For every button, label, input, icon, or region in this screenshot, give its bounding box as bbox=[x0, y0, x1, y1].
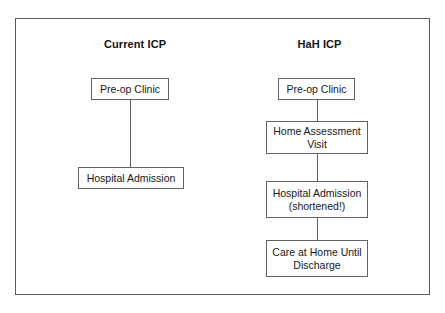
node-label-line1: Home Assessment bbox=[273, 125, 361, 138]
node-label-line1: Care at Home Until bbox=[272, 246, 361, 259]
node-label-line1: Hospital Admission bbox=[273, 187, 362, 200]
node-current-pre-op-clinic: Pre-op Clinic bbox=[91, 78, 169, 100]
connector-current-preop-to-admission bbox=[130, 100, 131, 167]
node-label-line1: Pre-op Clinic bbox=[100, 83, 160, 96]
flowchart-diagram: Current ICP HaH ICP Pre-op Clinic Hospit… bbox=[0, 0, 445, 313]
connector-hah-preop-to-home-assessment bbox=[317, 100, 318, 121]
node-label-line2: Visit bbox=[273, 138, 361, 151]
connector-hah-home-assessment-to-admission bbox=[317, 154, 318, 181]
node-hah-home-assessment-visit: Home Assessment Visit bbox=[266, 121, 368, 154]
node-hah-hospital-admission-shortened: Hospital Admission (shortened!) bbox=[266, 181, 368, 218]
connector-hah-admission-to-care-at-home bbox=[317, 218, 318, 240]
column-title-hah-icp: HaH ICP bbox=[262, 38, 377, 50]
node-label-line1: Pre-op Clinic bbox=[286, 83, 346, 96]
node-label-line2: (shortened!) bbox=[273, 200, 362, 213]
node-label-line1: Hospital Admission bbox=[87, 172, 176, 185]
node-hah-care-at-home-until-discharge: Care at Home Until Discharge bbox=[266, 240, 368, 277]
node-current-hospital-admission: Hospital Admission bbox=[78, 167, 184, 189]
node-hah-pre-op-clinic: Pre-op Clinic bbox=[278, 78, 355, 100]
column-title-current-icp: Current ICP bbox=[75, 38, 195, 50]
node-label-line2: Discharge bbox=[272, 259, 361, 272]
